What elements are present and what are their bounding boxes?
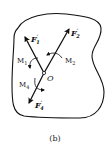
moment-m1-label: M1 bbox=[17, 57, 27, 66]
force-f2-arrow bbox=[44, 29, 69, 73]
moment-m2-label: M2 bbox=[65, 57, 75, 66]
force-f2-label: F′2 bbox=[70, 27, 80, 39]
force-f1-label: F′1 bbox=[30, 33, 40, 45]
moment-m4-label: M4 bbox=[19, 81, 29, 90]
force-f4-label: F′4 bbox=[34, 99, 44, 111]
origin-label: O bbox=[47, 74, 54, 83]
figure-caption: (b) bbox=[0, 134, 110, 143]
rigid-body-outline bbox=[12, 14, 104, 118]
origin-point bbox=[42, 71, 45, 74]
